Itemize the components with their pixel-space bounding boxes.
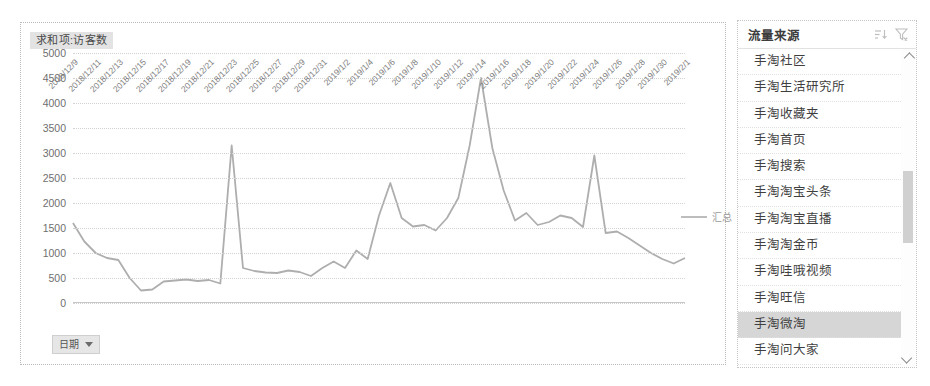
gridline — [73, 203, 685, 204]
gridline — [73, 278, 685, 279]
slicer-item[interactable]: 手淘哇哦视频 — [738, 259, 901, 285]
chevron-up-icon[interactable] — [901, 50, 915, 66]
y-axis-tick-label: 3500 — [43, 122, 66, 134]
slicer-panel[interactable]: 流量来源 手淘社区手淘生活研究所手淘收藏夹手淘 — [737, 20, 917, 368]
slicer-item[interactable]: 手淘收藏夹 — [738, 102, 901, 128]
date-field-label: 日期 — [59, 338, 79, 351]
date-field-button[interactable]: 日期 — [52, 335, 100, 354]
gridline — [73, 303, 685, 304]
slicer-item[interactable]: 手淘问大家 — [738, 338, 901, 364]
y-axis-tick-label: 1500 — [43, 222, 66, 234]
y-axis-tick-label: 2500 — [43, 172, 66, 184]
slicer-scrollbar[interactable] — [901, 49, 915, 367]
y-axis-tick-label: 500 — [48, 272, 66, 284]
y-axis-tick-label: 1000 — [43, 247, 66, 259]
plot-region: 0500100015002000250030003500400045005000… — [73, 53, 685, 303]
slicer-item[interactable]: 手淘微淘 — [738, 312, 901, 338]
slicer-item[interactable]: 手淘首页 — [738, 128, 901, 154]
gridline — [73, 53, 685, 54]
slicer-header: 流量来源 — [738, 21, 916, 49]
slicer-body: 手淘社区手淘生活研究所手淘收藏夹手淘首页手淘搜索手淘淘宝头条手淘淘宝直播手淘淘金… — [738, 49, 916, 367]
chart-legend: 汇总 — [681, 209, 732, 224]
funnel-filter-icon[interactable] — [893, 26, 910, 43]
slicer-item-list: 手淘社区手淘生活研究所手淘收藏夹手淘首页手淘搜索手淘淘宝头条手淘淘宝直播手淘淘金… — [738, 49, 901, 367]
gridline — [73, 228, 685, 229]
chevron-down-icon[interactable] — [901, 350, 915, 366]
chart-area[interactable]: 求和项:访客数 05001000150020002500300035004000… — [20, 22, 726, 365]
y-axis-tick-label: 3000 — [43, 147, 66, 159]
slicer-item[interactable]: 手淘旺信 — [738, 286, 901, 312]
slicer-item[interactable]: 手淘社区 — [738, 49, 901, 75]
scrollbar-thumb[interactable] — [903, 171, 913, 243]
y-axis-tick-label: 4000 — [43, 97, 66, 109]
slicer-item[interactable]: 手淘我的评价 — [738, 365, 901, 367]
caret-down-icon — [85, 342, 93, 347]
slicer-item[interactable]: 手淘淘宝头条 — [738, 180, 901, 206]
gridline — [73, 103, 685, 104]
gridline — [73, 153, 685, 154]
slicer-item[interactable]: 手淘淘金币 — [738, 233, 901, 259]
y-axis-tick-label: 0 — [60, 297, 66, 309]
y-axis-tick-label: 5000 — [43, 47, 66, 59]
slicer-item[interactable]: 手淘淘宝直播 — [738, 207, 901, 233]
gridline — [73, 178, 685, 179]
pivotchart-screen: 求和项:访客数 05001000150020002500300035004000… — [0, 0, 930, 386]
slicer-item[interactable]: 手淘生活研究所 — [738, 75, 901, 101]
gridline — [73, 253, 685, 254]
gridline — [73, 128, 685, 129]
legend-swatch — [681, 216, 707, 218]
slicer-title: 流量来源 — [748, 25, 868, 44]
legend-label: 汇总 — [712, 209, 732, 224]
sort-icon[interactable] — [872, 26, 889, 43]
y-axis-tick-label: 2000 — [43, 197, 66, 209]
slicer-item[interactable]: 手淘搜索 — [738, 154, 901, 180]
